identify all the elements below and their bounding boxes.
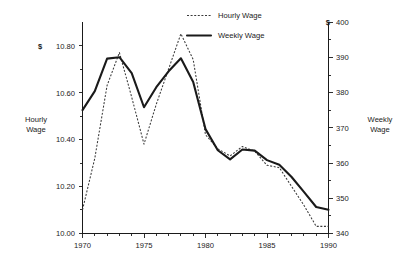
x-tick-label-1980: 1980: [197, 241, 214, 250]
left-tick-label-1080: 10.80: [56, 42, 75, 51]
x-axis-ticks: [83, 233, 329, 238]
right-tick-label-340: 340: [336, 229, 349, 238]
right-axis-title-line2: Wage: [370, 125, 390, 134]
x-tick-label-1985: 1985: [259, 241, 276, 250]
right-tick-label-390: 390: [336, 53, 349, 62]
right-tick-label-380: 380: [336, 88, 349, 97]
right-tick-label-400: 400: [336, 18, 349, 27]
left-axis-title-line1: Hourly: [25, 115, 47, 124]
x-axis-tick-labels: 1970 1975 1980 1985 1990: [74, 241, 337, 250]
legend-item-weekly-wage: Weekly Wage: [187, 31, 264, 40]
x-tick-label-1975: 1975: [136, 241, 153, 250]
right-tick-label-350: 350: [336, 194, 349, 203]
plot-area: [83, 34, 329, 227]
x-tick-label-1970: 1970: [74, 241, 91, 250]
left-tick-label-1000: 10.00: [56, 229, 75, 238]
legend-label-weekly-wage: Weekly Wage: [218, 31, 264, 40]
right-axis-title-line1: Weekly: [368, 115, 393, 124]
right-axis-ticks: [329, 22, 333, 233]
left-axis-currency-symbol: $: [38, 42, 43, 51]
left-tick-label-1040: 10.40: [56, 135, 75, 144]
left-axis-tick-labels: 10.80 10.60 10.40 10.20 10.00: [56, 42, 75, 238]
left-axis-title-line2: Wage: [26, 125, 46, 134]
right-tick-label-370: 370: [336, 124, 349, 133]
chart-legend: Hourly Wage Weekly Wage: [187, 11, 264, 40]
x-tick-label-1990: 1990: [320, 241, 337, 250]
wage-line-chart: 10.80 10.60 10.40 10.20 10.00 $ Hourly W…: [0, 0, 411, 264]
right-axis-title: Weekly Wage: [368, 115, 393, 134]
right-axis-tick-labels: 400 390 380 370 360 350 340: [336, 18, 349, 238]
chart-figure: 10.80 10.60 10.40 10.20 10.00 $ Hourly W…: [0, 0, 411, 264]
left-tick-label-1020: 10.20: [56, 182, 75, 191]
left-tick-label-1060: 10.60: [56, 89, 75, 98]
legend-label-hourly-wage: Hourly Wage: [218, 11, 262, 20]
right-tick-label-360: 360: [336, 159, 349, 168]
left-axis-ticks: [79, 46, 83, 233]
legend-item-hourly-wage: Hourly Wage: [187, 11, 262, 20]
left-axis-title: Hourly Wage: [25, 115, 47, 134]
